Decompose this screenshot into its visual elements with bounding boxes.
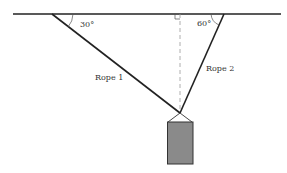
angle-arc-left	[68, 14, 73, 27]
angle-right-label: 60°	[197, 19, 211, 28]
svg-text:Rope 2: Rope 2	[206, 64, 234, 73]
tension-diagram: 30° 60° Rope 1 Rope 2	[0, 0, 287, 173]
rope-2-label: Rope 2	[206, 64, 234, 73]
angle-left-label: 30°	[80, 20, 94, 29]
angle-arc-right	[211, 14, 219, 25]
svg-text:60°: 60°	[197, 19, 211, 28]
hanging-weight	[168, 122, 194, 164]
rope-1-label: Rope 1	[95, 73, 123, 82]
hanger-strap	[168, 113, 192, 122]
svg-text:30°: 30°	[80, 20, 94, 29]
rope-1	[52, 14, 180, 113]
svg-text:Rope 1: Rope 1	[95, 73, 123, 82]
